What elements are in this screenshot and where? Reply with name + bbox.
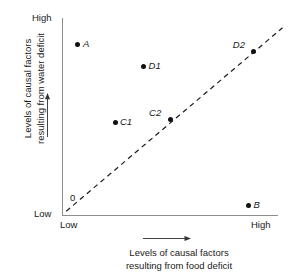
y-axis-label: Levels of causal factors resulting from … bbox=[22, 6, 47, 172]
data-point-label-d1: D1 bbox=[149, 60, 161, 71]
x-axis-label: Levels of causal factors resulting from … bbox=[84, 247, 274, 272]
data-point-d2 bbox=[251, 49, 256, 54]
cropped-header-text bbox=[62, 0, 212, 2]
data-point-a bbox=[75, 42, 80, 47]
data-point-b bbox=[246, 203, 251, 208]
data-point-d1 bbox=[141, 64, 146, 69]
y-axis-label-line-2: resulting from water deficit bbox=[34, 6, 47, 172]
data-point-c1 bbox=[113, 120, 118, 125]
data-point-c2 bbox=[168, 117, 173, 122]
data-point-label-b: B bbox=[254, 199, 260, 210]
data-point-label-a: A bbox=[83, 38, 89, 49]
origin-label: 0 bbox=[70, 192, 75, 203]
data-point-label-c1: C1 bbox=[120, 116, 132, 127]
x-axis-line bbox=[62, 215, 278, 216]
y-axis-line bbox=[62, 18, 63, 216]
data-point-label-c2: C2 bbox=[149, 107, 161, 118]
data-point-label-d2: D2 bbox=[233, 39, 245, 50]
x-axis-tick-high: High bbox=[251, 219, 271, 230]
chart-figure: High Low Low High Levels of causal facto… bbox=[0, 0, 292, 277]
y-axis-label-line-1: Levels of causal factors bbox=[22, 6, 35, 172]
x-axis-label-line-2: resulting from food deficit bbox=[84, 260, 274, 273]
y-axis-direction-arrow-icon bbox=[43, 93, 52, 137]
y-axis-tick-low: Low bbox=[34, 208, 51, 219]
x-axis-label-line-1: Levels of causal factors bbox=[84, 247, 274, 260]
x-axis-direction-arrow-icon bbox=[143, 234, 191, 243]
x-axis-tick-low: Low bbox=[60, 219, 77, 230]
